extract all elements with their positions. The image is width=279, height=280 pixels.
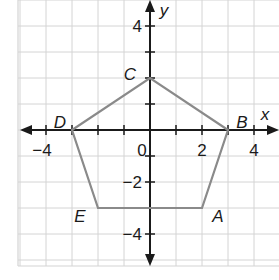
y-tick-label: −4	[123, 225, 142, 244]
grid-lines	[18, 0, 279, 266]
y-axis-label: y	[159, 1, 170, 20]
x-tick-label: 4	[249, 141, 258, 160]
x-axis-right-arrow-icon	[267, 125, 279, 135]
y-tick-label: 4	[133, 17, 142, 36]
coordinate-plane: −40244−2−4xy ABCDE	[0, 0, 279, 280]
vertex-label-a: A	[211, 207, 223, 226]
vertex-label-b: B	[236, 113, 247, 132]
x-tick-label: 2	[197, 141, 206, 160]
x-tick-label: −4	[32, 141, 51, 160]
y-tick-label: −2	[123, 173, 142, 192]
vertex-label-e: E	[74, 207, 86, 226]
vertex-label-d: D	[54, 113, 66, 132]
x-axis-label: x	[260, 105, 270, 124]
vertex-label-c: C	[124, 65, 137, 84]
x-tick-label: 0	[137, 141, 146, 160]
y-axis-up-arrow-icon	[145, 0, 155, 12]
axes	[20, 0, 279, 266]
x-axis-left-arrow-icon	[20, 125, 32, 135]
